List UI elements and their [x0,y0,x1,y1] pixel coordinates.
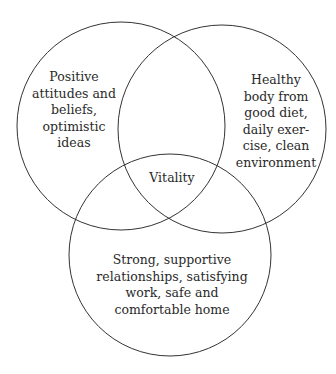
label-healthy-body: Healthy body from good diet, daily exer-… [226,72,326,171]
label-vitality: Vitality [142,170,202,187]
label-attitudes: Positive attitudes and beliefs, optimist… [22,69,126,152]
label-relationships: Strong, supportive relationships, satisf… [92,252,252,318]
